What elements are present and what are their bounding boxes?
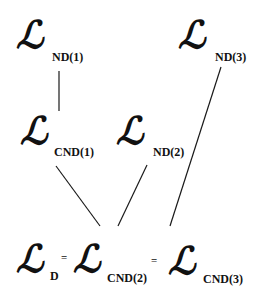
subscript-cnd1: CND(1) [54, 146, 94, 158]
subscript-nd1: ND(1) [52, 51, 83, 63]
script-l-symbol: ℒ [16, 16, 43, 54]
script-l-symbol: ℒ [178, 16, 205, 54]
subscript-d: D [50, 270, 59, 282]
equals-sign-1: = [61, 252, 67, 263]
equals-sign-2: = [151, 255, 157, 266]
script-l-symbol: ℒ [116, 112, 143, 150]
subscript-cnd2: CND(2) [107, 272, 147, 284]
script-l-symbol-cnd3: ℒ [168, 242, 195, 280]
script-l-symbol-cnd2: ℒ [73, 240, 100, 278]
subscript-nd2: ND(2) [153, 146, 184, 158]
subscript-nd3: ND(3) [215, 51, 246, 63]
likelihood-diagram: ℒ ND(1) ℒ ND(3) ℒ CND(1) ℒ ND(2) ℒ D = ℒ… [0, 0, 270, 303]
edge-nd2-cnd2 [118, 165, 147, 226]
script-l-symbol: ℒ [20, 112, 47, 150]
script-l-symbol-d: ℒ [16, 240, 43, 278]
subscript-cnd3: CND(3) [203, 273, 243, 285]
edge-cnd1-cnd2 [56, 166, 100, 226]
